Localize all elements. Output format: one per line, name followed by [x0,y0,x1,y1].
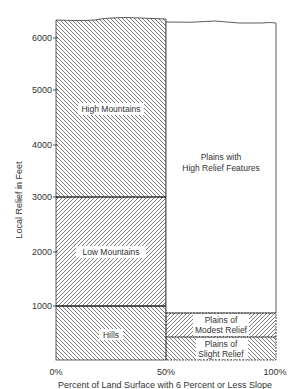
x-tick-0: 0% [49,367,62,377]
label-plains-slight-line2: Slight Relief [198,349,244,359]
y-axis: 6000 5000 4000 3000 2000 1000 [32,33,58,311]
label-low-mountains: Low Mountains [82,247,139,257]
y-tick-3000: 3000 [32,192,52,202]
y-tick-6000: 6000 [32,33,52,43]
y-tick-1000: 1000 [32,301,52,311]
y-tick-2000: 2000 [32,247,52,257]
x-tick-100: 100% [263,367,286,377]
label-plains-modest-line1: Plains of [205,315,238,325]
label-high-mountains: High Mountains [81,104,140,114]
y-tick-5000: 5000 [32,85,52,95]
y-tick-4000: 4000 [32,140,52,150]
y-axis-label: Local Relief in Feet [14,161,24,239]
label-plains-modest-line2: Modest Relief [195,325,248,335]
label-plains-high-line1: Plains with [201,152,242,162]
x-axis-label: Percent of Land Surface with 6 Percent o… [58,380,272,389]
x-tick-50: 50% [157,367,175,377]
label-hills: Hills [103,330,119,340]
relief-chart: High Mountains Low Mountains Hills Plain… [0,0,299,389]
label-plains-slight-line1: Plains of [205,339,238,349]
label-plains-high-line2: High Relief Features [182,163,259,173]
